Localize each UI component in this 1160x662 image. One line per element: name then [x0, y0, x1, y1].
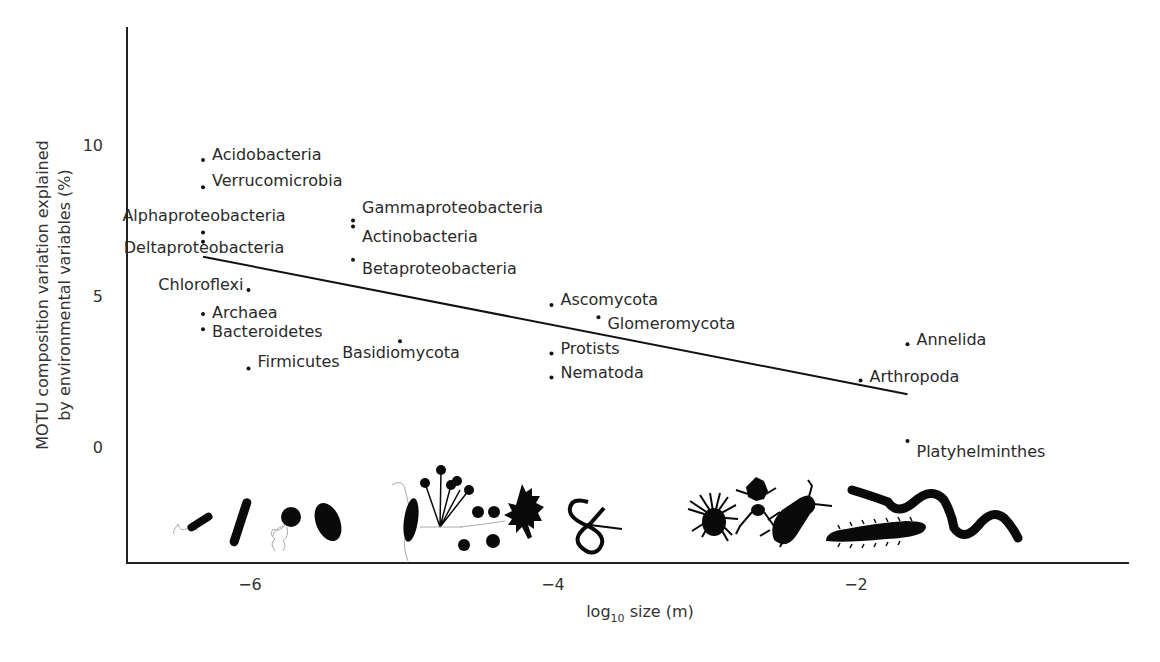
y-tick-label: 0	[93, 438, 103, 457]
y-axis-title-line1: MOTU composition variation explained	[33, 140, 52, 449]
point-label: Deltaproteobacteria	[124, 238, 284, 257]
point-label: Arthropoda	[870, 367, 960, 386]
point-label: Basidiomycota	[342, 343, 460, 362]
point-label: Firmicutes	[257, 352, 339, 371]
data-point: Acidobacteria	[201, 145, 322, 164]
data-point: Verrucomicrobia	[201, 171, 342, 190]
point-marker	[201, 185, 205, 189]
data-point: Actinobacteria	[351, 225, 478, 246]
bacterium-flagellated-icon	[174, 511, 214, 534]
data-point: Arthropoda	[859, 367, 960, 386]
point-label: Verrucomicrobia	[212, 171, 342, 190]
bacterium-coccus-flagellated-icon	[271, 507, 301, 551]
data-point: Deltaproteobacteria	[124, 238, 284, 257]
point-label: Glomeromycota	[607, 314, 735, 333]
fungus-sporangia-icon	[420, 465, 474, 527]
amoeba-icon	[504, 484, 544, 539]
point-marker	[549, 351, 553, 355]
data-point: Archaea	[201, 303, 278, 322]
point-marker	[351, 258, 355, 262]
nematode-icon	[570, 500, 622, 552]
point-label: Gammaproteobacteria	[362, 198, 543, 217]
point-marker	[201, 231, 205, 235]
point-label: Chloroflexi	[158, 275, 243, 294]
point-label: Protists	[560, 339, 619, 358]
point-marker	[549, 303, 553, 307]
point-marker	[201, 327, 205, 331]
data-point: Glomeromycota	[596, 314, 735, 333]
point-marker	[246, 288, 250, 292]
y-tick-label: 10	[83, 136, 103, 155]
data-point: Alphaproteobacteria	[122, 206, 285, 235]
point-marker	[859, 379, 863, 383]
data-point: Nematoda	[549, 363, 643, 382]
x-tick-label: −6	[238, 575, 262, 594]
data-point: Basidiomycota	[342, 339, 460, 362]
point-label: Acidobacteria	[212, 145, 322, 164]
data-point: Annelida	[906, 330, 987, 349]
x-axis-title: log10 size (m)	[586, 602, 694, 625]
data-point: Betaproteobacteria	[351, 258, 517, 278]
ant-icon	[736, 477, 776, 534]
point-marker	[906, 342, 910, 346]
data-point: Chloroflexi	[158, 275, 250, 294]
point-label: Bacteroidetes	[212, 322, 323, 341]
point-label: Archaea	[212, 303, 278, 322]
point-marker	[549, 376, 553, 380]
data-point: Firmicutes	[246, 352, 339, 371]
data-point: Bacteroidetes	[201, 322, 323, 341]
point-label: Actinobacteria	[362, 227, 478, 246]
x-tick-labels: −6−4−2	[238, 575, 868, 594]
y-tick-labels: 0510	[83, 136, 103, 457]
millipede-icon	[826, 517, 926, 548]
point-label: Platyhelminthes	[917, 442, 1046, 461]
point-label: Ascomycota	[560, 290, 658, 309]
fungus-hyphae-icon	[458, 506, 505, 551]
x-tick-label: −4	[541, 575, 565, 594]
y-tick-label: 5	[93, 287, 103, 306]
point-marker	[201, 312, 205, 316]
point-marker	[351, 219, 355, 223]
bacterium-oval-icon	[309, 499, 346, 545]
point-label: Alphaproteobacteria	[122, 206, 285, 225]
organism-silhouettes	[174, 465, 1019, 561]
point-label: Annelida	[917, 330, 987, 349]
data-point: Ascomycota	[549, 290, 658, 309]
mite-icon	[688, 493, 738, 541]
point-marker	[351, 225, 355, 229]
data-points: AcidobacteriaVerrucomicrobiaAlphaproteob…	[122, 145, 1045, 461]
scatter-chart: 0510 −6−4−2 MOTU composition variation e…	[0, 0, 1160, 662]
y-axis-title: MOTU composition variation explained by …	[33, 140, 74, 449]
protist-flagellate-icon	[392, 482, 421, 561]
point-marker	[201, 158, 205, 162]
y-axis-title-line2: by environmental variables (%)	[55, 169, 74, 421]
data-point: Platyhelminthes	[906, 439, 1046, 461]
point-marker	[596, 315, 600, 319]
x-tick-label: −2	[844, 575, 868, 594]
point-marker	[906, 439, 910, 443]
point-marker	[246, 366, 250, 370]
data-point: Protists	[549, 339, 619, 358]
bacterium-rod-icon	[228, 497, 252, 547]
point-label: Nematoda	[560, 363, 643, 382]
point-label: Betaproteobacteria	[362, 259, 517, 278]
data-point: Gammaproteobacteria	[351, 198, 543, 223]
